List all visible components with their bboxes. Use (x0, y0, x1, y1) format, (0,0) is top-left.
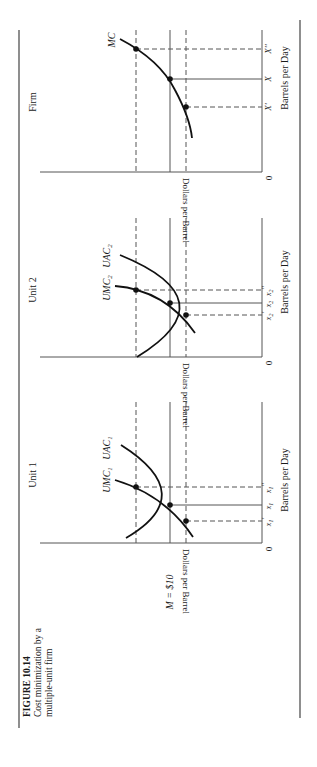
price-label: M = $10 (164, 574, 175, 610)
firm-tick-Xpp: X'' (263, 43, 273, 54)
unit1-title: Unit 1 (27, 462, 38, 487)
unit1-yaxis-label: Dollars per Barrel (181, 549, 191, 614)
unit1-tick-x1p: x1' (261, 518, 274, 528)
umc1-label: UMC1 (101, 467, 114, 493)
unit2-tick-x2p: x2' (261, 312, 274, 322)
firm-tick-X: X (263, 76, 273, 83)
unit2-umc-curve (115, 286, 195, 333)
unit1-panel (40, 402, 262, 543)
unit2-title: Unit 2 (27, 277, 38, 302)
umc2-label: UMC2 (101, 275, 114, 301)
unit2-xaxis-label: Barrels per Day (279, 250, 290, 313)
unit2-point-low (183, 312, 189, 318)
unit1-point-mid (167, 502, 173, 508)
mc-label: MC (106, 32, 117, 48)
uac1-label: UAC1 (101, 436, 114, 460)
unit1-umc-curve (115, 480, 193, 537)
unit1-point-high (133, 484, 139, 490)
firm-yaxis-label: Dollars per Barrel (181, 178, 191, 243)
unit2-panel (40, 218, 262, 357)
firm-title: Firm (27, 92, 38, 112)
firm-point-high (133, 46, 139, 52)
firm-origin: 0 (264, 175, 274, 180)
uac2-label: UAC2 (101, 244, 114, 268)
figure-number: FIGURE 10.14 (22, 656, 32, 717)
unit2-point-mid (167, 300, 173, 306)
firm-tick-Xp: X' (263, 102, 273, 111)
unit1-tick-x1pp: x1'' (261, 483, 274, 494)
caption-line2: multiple-unit firm (44, 648, 54, 717)
unit2-tick-x2pp: x2'' (261, 286, 274, 297)
unit1-origin: 0 (264, 546, 274, 551)
firm-panel (40, 30, 262, 172)
firm-point-mid (167, 76, 173, 82)
caption-line1: Cost minimization by a (33, 627, 43, 717)
unit2-yaxis-label: Dollars per Barrel (181, 363, 191, 428)
unit2-point-high (133, 287, 139, 293)
unit1-point-low (183, 518, 189, 524)
firm-xaxis-label: Barrels per Day (279, 46, 290, 109)
unit2-tick-x2: x2 (264, 301, 274, 309)
figure-canvas: Firm Unit 2 Unit 1 MC UMC2 UAC2 UMC1 UAC… (0, 0, 317, 767)
unit1-tick-x1: x1 (264, 503, 274, 511)
firm-mc-curve (120, 39, 192, 138)
unit1-xaxis-label: Barrels per Day (279, 448, 290, 511)
unit2-origin: 0 (264, 360, 274, 365)
firm-point-low (183, 104, 189, 110)
